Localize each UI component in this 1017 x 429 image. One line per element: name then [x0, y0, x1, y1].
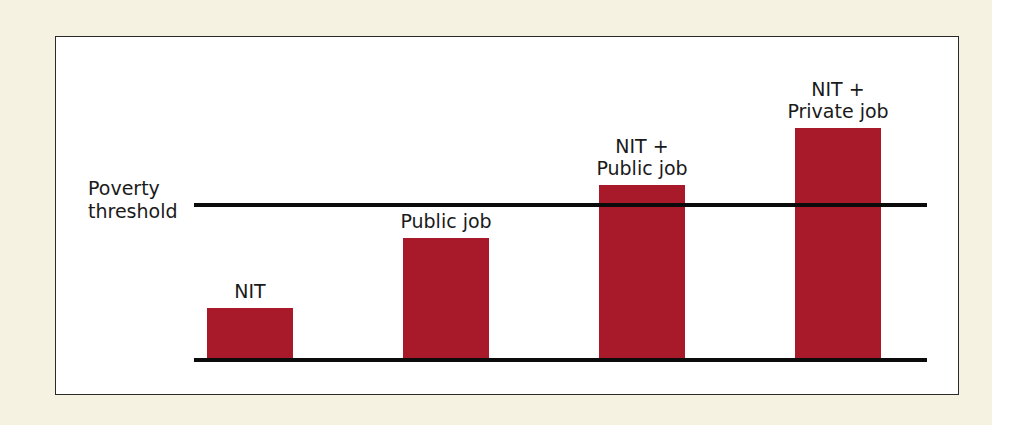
bar-label-line: NIT: [170, 280, 330, 302]
bar-nit-public-job: [599, 185, 685, 360]
bar-label: NIT +Public job: [562, 135, 722, 179]
bar-label-line: Public job: [366, 210, 526, 232]
poverty-threshold-line: [194, 203, 927, 207]
bar-label-line: Public job: [562, 157, 722, 179]
poverty-threshold-label-line-2: threshold: [88, 200, 177, 223]
bar-label: Public job: [366, 210, 526, 232]
bar-public-job: [403, 238, 489, 361]
bar-label-line: NIT +: [562, 135, 722, 157]
bar-nit-private-job: [795, 128, 881, 361]
bar-label-line: Private job: [758, 100, 918, 122]
bar-label: NIT: [170, 280, 330, 302]
poverty-threshold-label-line-1: Poverty: [88, 177, 177, 200]
poverty-threshold-label: Poverty threshold: [88, 177, 177, 223]
baseline: [194, 358, 927, 362]
bar-nit: [207, 308, 293, 361]
bar-label-line: NIT +: [758, 78, 918, 100]
bar-label: NIT +Private job: [758, 78, 918, 122]
